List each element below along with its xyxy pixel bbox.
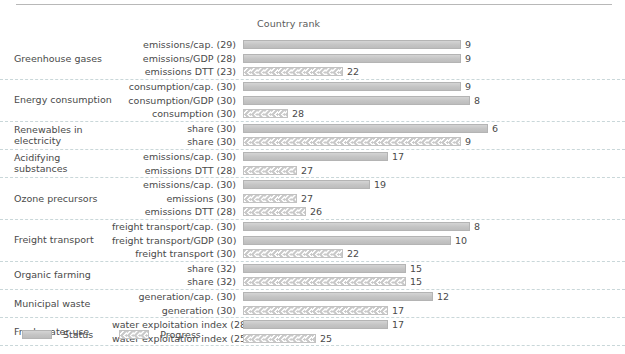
bar-track: 22 — [243, 247, 625, 261]
indicator-label: share (30) — [112, 136, 243, 147]
indicator-label: consumption/cap. (30) — [112, 81, 243, 92]
progress-bar — [243, 194, 297, 203]
status-bar — [243, 236, 451, 245]
group-rows: emissions/cap. (29)9emissions/GDP (28)9e… — [112, 38, 625, 79]
legend-label-status: Status — [63, 329, 93, 340]
progress-bar — [243, 277, 406, 286]
status-bar — [243, 96, 470, 105]
bar-value-label: 9 — [461, 81, 471, 92]
indicator-label: emissions DTT (28) — [112, 206, 243, 217]
indicator-label: freight transport/GDP (30) — [112, 235, 243, 246]
indicator-label: freight transport (30) — [112, 248, 243, 259]
bar-value-label: 22 — [343, 66, 359, 77]
bar-track: 15 — [243, 275, 625, 289]
chart-groups: Greenhouse gasesemissions/cap. (29)9emis… — [0, 38, 625, 346]
group-rows: consumption/cap. (30)9consumption/GDP (3… — [112, 80, 625, 121]
bar-value-label: 19 — [370, 179, 386, 190]
bar-track: 27 — [243, 163, 625, 177]
indicator-label: generation/cap. (30) — [112, 291, 243, 302]
status-bar — [243, 222, 470, 231]
chart-row: emissions/cap. (30)17 — [112, 150, 625, 164]
bar-value-label: 10 — [451, 235, 467, 246]
status-bar — [243, 152, 388, 161]
bar-track: 8 — [243, 220, 625, 234]
progress-bar — [243, 249, 343, 258]
legend-item-status[interactable]: Status — [22, 329, 93, 340]
group-rows: freight transport/cap. (30)8freight tran… — [112, 220, 625, 261]
group-label: Organic farming — [0, 262, 112, 289]
progress-bar — [243, 334, 316, 343]
status-bar — [243, 320, 388, 329]
status-bar — [243, 124, 488, 133]
chart-row: freight transport/cap. (30)8 — [112, 220, 625, 234]
chart-group: Ozone precursorsemissions/cap. (30)19emi… — [0, 178, 625, 220]
progress-bar — [243, 109, 288, 118]
chart-row: emissions DTT (28)27 — [112, 163, 625, 177]
group-label: Freight transport — [0, 220, 112, 261]
progress-bar — [243, 207, 306, 216]
status-bar — [243, 82, 461, 91]
bar-track: 17 — [243, 303, 625, 317]
bar-track: 17 — [243, 318, 625, 332]
legend-swatch-progress — [119, 330, 149, 339]
bar-value-label: 27 — [297, 165, 313, 176]
indicator-label: share (32) — [112, 263, 243, 274]
bar-track: 22 — [243, 65, 625, 79]
axis-title: Country rank — [257, 18, 320, 29]
group-label: Renewables in electricity — [0, 122, 112, 149]
chart-row: freight transport/GDP (30)10 — [112, 233, 625, 247]
bar-value-label: 17 — [388, 151, 404, 162]
chart-row: consumption (30)28 — [112, 107, 625, 121]
chart-group: Freight transportfreight transport/cap. … — [0, 220, 625, 262]
chart-legend: StatusProgress — [22, 329, 227, 340]
bar-track: 27 — [243, 192, 625, 206]
chart-row: emissions DTT (23)22 — [112, 65, 625, 79]
group-rows: share (30)6share (30)9 — [112, 122, 625, 149]
chart-row: emissions/GDP (28)9 — [112, 52, 625, 66]
indicator-label: share (30) — [112, 123, 243, 134]
group-label: Ozone precursors — [0, 178, 112, 219]
bar-value-label: 25 — [316, 333, 332, 344]
group-label: Energy consumption — [0, 80, 112, 121]
indicator-label: emissions DTT (28) — [112, 165, 243, 176]
bar-value-label: 22 — [343, 248, 359, 259]
chart-row: share (30)9 — [112, 135, 625, 149]
indicator-label: freight transport/cap. (30) — [112, 221, 243, 232]
group-label: Municipal waste — [0, 290, 112, 317]
group-rows: share (32)15share (32)15 — [112, 262, 625, 289]
bar-value-label: 9 — [461, 136, 471, 147]
progress-bar — [243, 67, 343, 76]
legend-label-progress: Progress — [160, 329, 201, 340]
chart-row: consumption/cap. (30)9 — [112, 80, 625, 94]
bar-value-label: 12 — [433, 291, 449, 302]
indicator-label: emissions/cap. (29) — [112, 39, 243, 50]
status-bar — [243, 264, 406, 273]
chart-row: share (30)6 — [112, 122, 625, 136]
group-rows: generation/cap. (30)12generation (30)17 — [112, 290, 625, 317]
chart-group: Organic farmingshare (32)15share (32)15 — [0, 262, 625, 290]
bar-track: 28 — [243, 107, 625, 121]
chart-row: emissions (30)27 — [112, 192, 625, 206]
bar-value-label: 8 — [470, 221, 480, 232]
bar-track: 19 — [243, 178, 625, 192]
bar-track: 9 — [243, 38, 625, 52]
bar-track: 10 — [243, 233, 625, 247]
indicator-label: emissions DTT (23) — [112, 66, 243, 77]
legend-item-progress[interactable]: Progress — [119, 329, 201, 340]
chart-row: emissions/cap. (30)19 — [112, 178, 625, 192]
country-rank-chart: Country rank Greenhouse gasesemissions/c… — [0, 0, 625, 354]
chart-group: Renewables in electricityshare (30)6shar… — [0, 122, 625, 150]
bar-value-label: 15 — [406, 263, 422, 274]
status-bar — [243, 180, 370, 189]
chart-row: emissions/cap. (29)9 — [112, 38, 625, 52]
bar-value-label: 15 — [406, 276, 422, 287]
indicator-label: generation (30) — [112, 305, 243, 316]
bar-track: 8 — [243, 93, 625, 107]
bar-track: 15 — [243, 262, 625, 276]
bar-value-label: 27 — [297, 193, 313, 204]
indicator-label: share (32) — [112, 276, 243, 287]
progress-bar — [243, 137, 461, 146]
bar-value-label: 9 — [461, 53, 471, 64]
group-rows: emissions/cap. (30)19emissions (30)27emi… — [112, 178, 625, 219]
bar-value-label: 9 — [461, 39, 471, 50]
